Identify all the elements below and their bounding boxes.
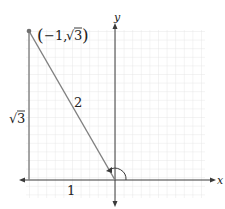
y-axis-label: y xyxy=(113,11,121,24)
point-marker xyxy=(27,29,32,34)
svg-text:(: ( xyxy=(37,25,44,45)
x-axis-left-arrow-icon xyxy=(19,178,25,183)
point-label: ( −1, √ 3 ) xyxy=(37,25,89,45)
y-axis-down-arrow-icon xyxy=(113,201,118,207)
horizontal-leg-label: 1 xyxy=(67,183,75,198)
coordinate-diagram: x y ( −1, √ 3 ) 2 √ 3 1 xyxy=(0,0,225,209)
svg-text:): ) xyxy=(82,25,89,45)
x-axis-right-arrow-icon xyxy=(210,178,216,183)
svg-text:3: 3 xyxy=(17,111,25,126)
svg-text:−1,: −1, xyxy=(44,28,67,43)
vertical-leg-label: √ 3 xyxy=(9,111,25,126)
x-axis-label: x xyxy=(217,174,224,187)
hypotenuse-label: 2 xyxy=(74,95,82,110)
